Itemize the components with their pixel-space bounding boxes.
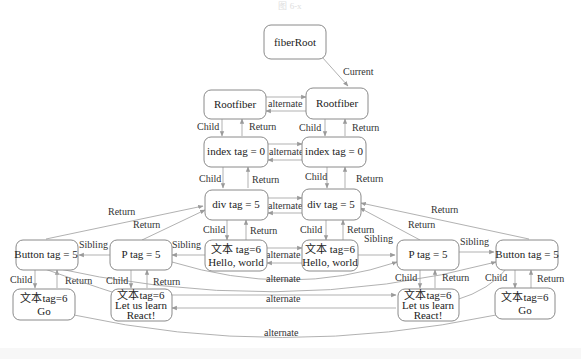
node-text-hello-left: 文本 tag=6 Hello, world [205,240,267,271]
alternate-label: alternate [266,249,301,260]
node-button-right: Button tag = 5 [495,240,559,270]
return-label: Return [250,225,277,236]
node-rootfiber-right: Rootfiber [306,88,368,119]
alternate-label: alternate [266,273,301,284]
child-label: Child [395,272,417,283]
svg-text:Hello, world: Hello, world [208,256,264,268]
svg-text:Hello, world: Hello, world [302,256,358,268]
return-label: Return [356,173,383,184]
svg-text:index tag = 0: index tag = 0 [207,145,265,157]
alternate-label: alternate [264,327,299,338]
svg-text:文本 tag=6: 文本 tag=6 [305,242,355,255]
alternate-label: alternate [266,293,301,304]
node-p-right: P tag = 5 [397,240,459,270]
svg-text:文本tag=6: 文本tag=6 [501,290,549,303]
svg-text:P tag = 5: P tag = 5 [121,248,161,260]
node-index-left: index tag = 0 [204,137,268,167]
node-text-react-right: 文本tag=6 Let us learn React! [398,288,459,321]
node-text-go-right: 文本tag=6 Go [495,288,555,319]
svg-text:Go: Go [37,305,51,317]
connector-line [42,268,112,292]
svg-text:index tag = 0: index tag = 0 [305,145,363,157]
return-label: Return [442,272,469,283]
child-label: Child [305,171,327,182]
child-label: Child [199,173,221,184]
current-label: Current [343,66,374,77]
svg-text:Button tag = 5: Button tag = 5 [14,248,78,260]
return-label: Return [249,121,276,132]
bottom-band [0,348,581,359]
svg-text:Rootfiber: Rootfiber [214,98,256,110]
svg-text:P tag = 5: P tag = 5 [408,248,448,260]
child-label: Child [197,121,219,132]
node-fiberroot: fiberRoot [264,25,326,59]
node-text-hello-right: 文本 tag=6 Hello, world [302,240,358,271]
return-label: Return [153,276,180,287]
svg-text:Rootfiber: Rootfiber [316,97,358,109]
sibling-label: Sibling [79,239,108,250]
return-label: Return [133,219,160,230]
node-text-go-left: 文本tag=6 Go [13,289,75,320]
svg-text:Go: Go [518,304,532,316]
sibling-label: Sibling [460,236,489,247]
svg-text:文本tag=6: 文本tag=6 [20,291,68,304]
sibling-label: Sibling [172,239,201,250]
node-div-right: div tag = 5 [302,189,361,220]
svg-text:div tag = 5: div tag = 5 [212,198,260,210]
node-p-left: P tag = 5 [110,240,172,270]
return-label: Return [108,206,135,217]
child-label: Child [203,224,225,235]
child-label: Child [300,224,322,235]
child-label: Child [485,272,507,283]
return-label: Return [352,122,379,133]
svg-text:Button tag = 5: Button tag = 5 [495,248,559,260]
node-rootfiber-left: Rootfiber [204,90,266,119]
child-label: Child [299,122,321,133]
svg-text:fiberRoot: fiberRoot [274,36,316,48]
fiber-tree-diagram: 图 6-x Current alternate Child Return Chi… [0,0,581,359]
svg-text:文本 tag=6: 文本 tag=6 [211,242,261,255]
return-label: Return [252,174,279,185]
node-text-react-left: 文本tag=6 Let us learn React! [111,288,172,321]
child-label: Child [106,275,128,286]
svg-text:div tag = 5: div tag = 5 [307,198,355,210]
alternate-label: alternate [268,98,303,109]
node-button-left: Button tag = 5 [14,240,78,270]
alternate-label: alternate [269,146,304,157]
edges: Current alternate Child Return Child Ret… [10,57,564,338]
return-label: Return [431,204,458,215]
node-index-right: index tag = 0 [302,137,366,167]
node-div-left: div tag = 5 [205,190,268,220]
return-label: Return [408,219,435,230]
svg-text:React!: React! [414,309,443,321]
alternate-label: alternate [268,200,303,211]
sibling-label: Sibling [364,233,393,244]
svg-text:React!: React! [127,309,156,321]
figure-caption: 图 6-x [278,1,302,11]
return-label: Return [537,273,564,284]
child-label: Child [10,274,32,285]
